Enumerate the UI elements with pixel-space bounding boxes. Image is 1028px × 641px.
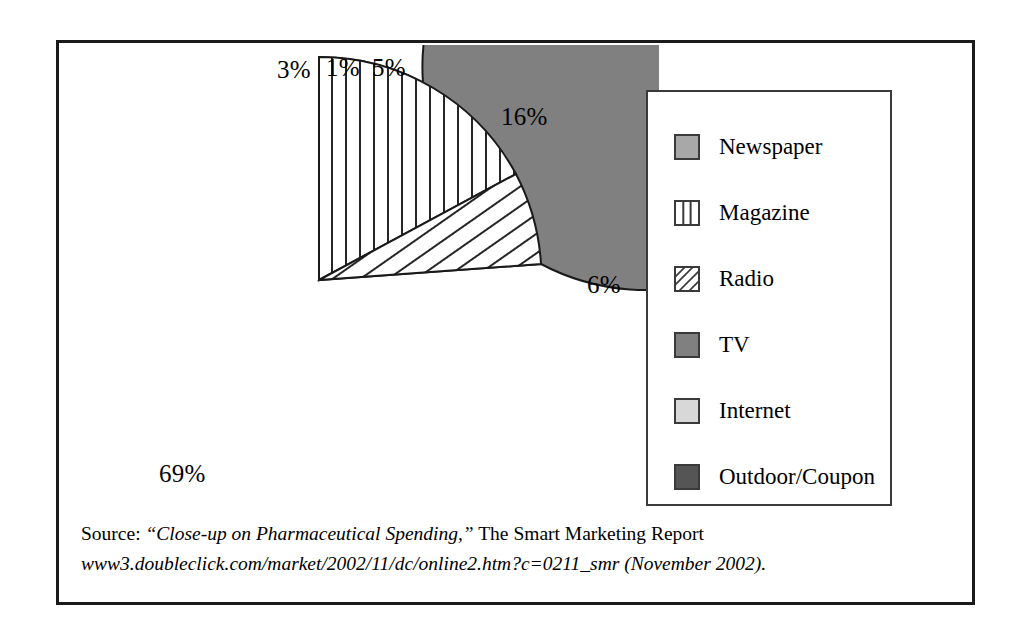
legend-item-tv[interactable]: TV	[674, 312, 890, 378]
legend-label-radio: Radio	[719, 266, 774, 292]
chart-area: 3% 1% 5% 16% 6% 69% Newspaper	[59, 43, 972, 513]
pie-label-magazine: 16%	[501, 103, 547, 131]
legend-item-newspaper[interactable]: Newspaper	[674, 114, 890, 180]
legend-item-magazine[interactable]: Magazine	[674, 180, 890, 246]
legend-item-radio[interactable]: Radio	[674, 246, 890, 312]
legend-list: Newspaper Magazine	[648, 92, 890, 504]
legend-swatch-internet-icon	[674, 398, 700, 424]
legend-swatch-tv-icon	[674, 332, 700, 358]
legend-item-internet[interactable]: Internet	[674, 378, 890, 444]
legend-swatch-newspaper-icon	[674, 134, 700, 160]
pie-label-radio: 6%	[587, 271, 621, 299]
source-date: (November 2002).	[619, 553, 766, 574]
legend-label-newspaper: Newspaper	[719, 134, 822, 160]
pie-label-outdoor: 3%	[277, 56, 311, 84]
source-url: www3.doubleclick.com/market/2002/11/dc/o…	[81, 553, 619, 574]
legend-swatch-magazine-icon	[674, 200, 700, 226]
pie-label-internet: 1%	[326, 54, 360, 82]
legend-item-outdoor-coupon[interactable]: Outdoor/Coupon	[674, 444, 890, 510]
legend-label-tv: TV	[719, 332, 750, 358]
chart-legend: Newspaper Magazine	[646, 90, 892, 506]
legend-label-outdoor-coupon: Outdoor/Coupon	[719, 464, 875, 490]
pie-label-newspaper: 5%	[372, 54, 406, 82]
legend-label-magazine: Magazine	[719, 200, 810, 226]
source-title: “Close-up on Pharmaceutical Spending,”	[145, 523, 473, 544]
legend-swatch-outdoor-coupon-icon	[674, 464, 700, 490]
pie-chart	[79, 45, 659, 515]
pie-label-tv: 69%	[159, 460, 205, 488]
legend-label-internet: Internet	[719, 398, 791, 424]
legend-swatch-radio-icon	[674, 266, 700, 292]
source-citation: Source: “Close-up on Pharmaceutical Spen…	[81, 519, 949, 579]
figure-frame: 3% 1% 5% 16% 6% 69% Newspaper	[56, 40, 975, 605]
source-prefix: Source:	[81, 523, 145, 544]
source-publication: The Smart Marketing Report	[474, 523, 704, 544]
